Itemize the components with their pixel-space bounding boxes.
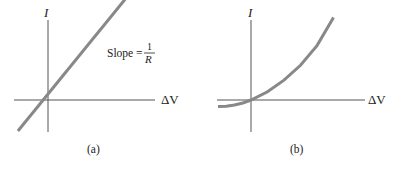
slope-numerator: 1 bbox=[147, 41, 152, 52]
xlabel-b: ΔV bbox=[368, 92, 386, 107]
panel-b: I ΔV (b) bbox=[217, 5, 386, 156]
xlabel-a: ΔV bbox=[161, 92, 179, 107]
slope-annotation: Slope = bbox=[107, 47, 143, 60]
ylabel-b: I bbox=[247, 5, 253, 20]
panel-label-a: (a) bbox=[87, 143, 100, 156]
series-line-a bbox=[18, 0, 134, 131]
figure: I ΔV Slope = 1 R (a) I ΔV (b) bbox=[0, 0, 397, 170]
series-curve-b bbox=[218, 18, 334, 107]
panel-label-b: (b) bbox=[290, 143, 304, 156]
ylabel-a: I bbox=[43, 5, 49, 20]
panel-a: I ΔV Slope = 1 R (a) bbox=[14, 0, 179, 156]
slope-denominator: R bbox=[144, 53, 152, 65]
